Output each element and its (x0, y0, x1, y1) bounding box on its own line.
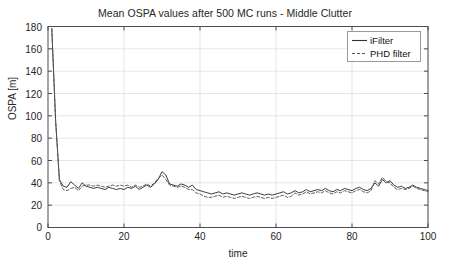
legend-entry-ifilter: iFilter (351, 34, 417, 47)
figure-container: Mean OSPA values after 500 MC runs - Mid… (0, 0, 450, 269)
legend-entry-phd-filter: PHD filter (351, 47, 417, 60)
legend-line-icon-dashed (351, 49, 368, 58)
legend-label-phd-filter: PHD filter (370, 47, 411, 60)
legend: iFilter PHD filter (347, 31, 421, 62)
legend-line-icon-solid (351, 36, 368, 45)
legend-label-ifilter: iFilter (370, 34, 393, 47)
